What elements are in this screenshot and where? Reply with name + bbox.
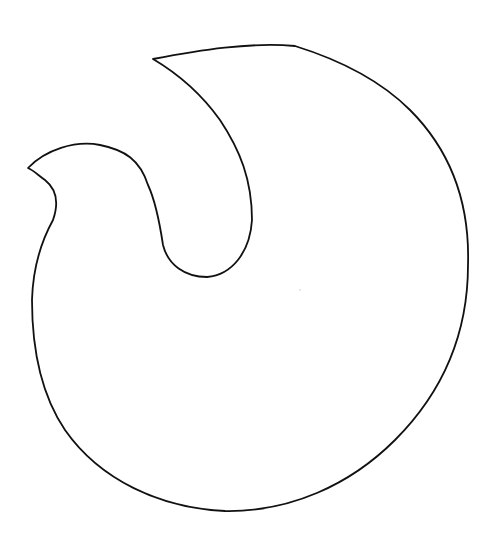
shape-outline-path	[28, 45, 468, 511]
drawing-canvas	[0, 0, 495, 539]
stray-pencil-mark	[299, 289, 301, 291]
flame-outline-drawing	[0, 0, 495, 539]
